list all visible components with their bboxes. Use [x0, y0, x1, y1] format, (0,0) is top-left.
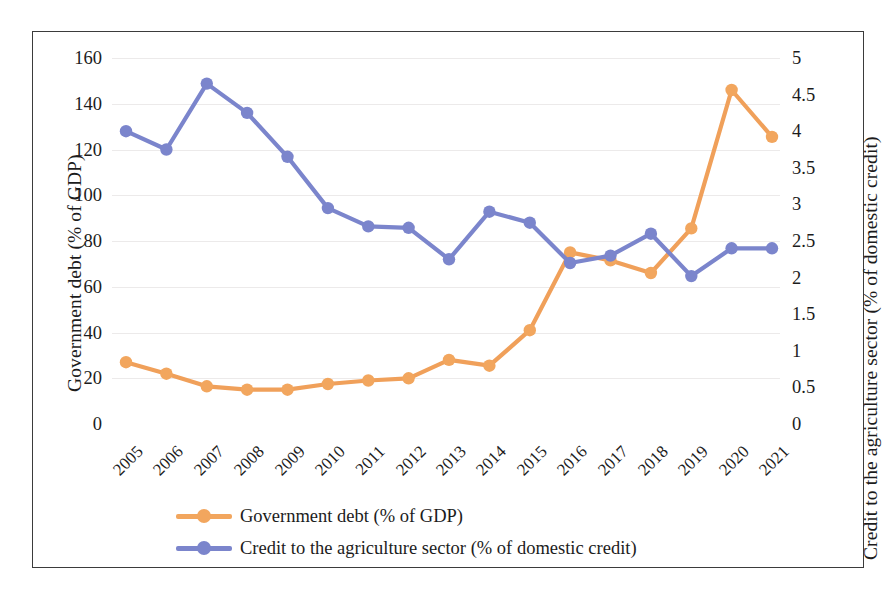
data-point	[725, 242, 737, 254]
legend-marker-agriculture-credit	[176, 541, 232, 555]
data-point	[443, 354, 455, 366]
chart-legend: Government debt (% of GDP) Credit to the…	[176, 500, 736, 564]
data-point	[362, 220, 374, 232]
data-point	[201, 380, 213, 392]
data-point	[483, 360, 495, 372]
data-point	[604, 249, 616, 261]
legend-item-agriculture-credit: Credit to the agriculture sector (% of d…	[176, 532, 736, 564]
data-point	[281, 384, 293, 396]
data-point	[766, 131, 778, 143]
data-point	[160, 143, 172, 155]
data-point	[402, 222, 414, 234]
data-point	[483, 206, 495, 218]
data-point	[281, 151, 293, 163]
data-point	[322, 378, 334, 390]
data-point	[120, 356, 132, 368]
legend-item-government-debt: Government debt (% of GDP)	[176, 500, 736, 532]
data-point	[443, 253, 455, 265]
data-point	[645, 267, 657, 279]
data-point	[685, 222, 697, 234]
data-point	[362, 374, 374, 386]
data-point	[241, 107, 253, 119]
data-point	[402, 372, 414, 384]
data-point	[766, 242, 778, 254]
data-point	[564, 257, 576, 269]
data-point	[160, 368, 172, 380]
series-line	[126, 90, 772, 390]
data-point	[120, 125, 132, 137]
chart-figure: Government debt (% of GDP) Credit to the…	[0, 0, 894, 600]
data-point	[645, 228, 657, 240]
legend-label-agriculture-credit: Credit to the agriculture sector (% of d…	[240, 538, 637, 559]
data-point	[322, 202, 334, 214]
legend-dot	[197, 541, 211, 555]
data-point	[524, 324, 536, 336]
data-point	[241, 384, 253, 396]
data-point	[685, 270, 697, 282]
data-point	[725, 84, 737, 96]
data-point	[524, 217, 536, 229]
legend-marker-government-debt	[176, 509, 232, 523]
data-point	[201, 77, 213, 89]
legend-label-government-debt: Government debt (% of GDP)	[240, 506, 463, 527]
legend-dot	[197, 509, 211, 523]
